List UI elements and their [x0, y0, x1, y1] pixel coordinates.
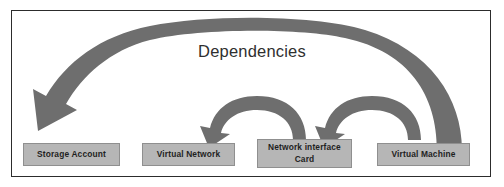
node-label: Virtual Machine [381, 149, 466, 160]
node-virtual-network[interactable]: Virtual Network [142, 143, 235, 166]
node-virtual-machine[interactable]: Virtual Machine [377, 143, 470, 166]
node-label: Storage Account [27, 149, 116, 160]
node-label: Network interface Card [261, 142, 348, 164]
node-label: Virtual Network [146, 149, 231, 160]
dependencies-diagram: Dependencies Storage Account Virtual Net… [0, 0, 504, 187]
node-network-interface-card[interactable]: Network interface Card [257, 139, 352, 168]
node-storage-account[interactable]: Storage Account [23, 143, 120, 166]
page-title: Dependencies [0, 42, 504, 61]
